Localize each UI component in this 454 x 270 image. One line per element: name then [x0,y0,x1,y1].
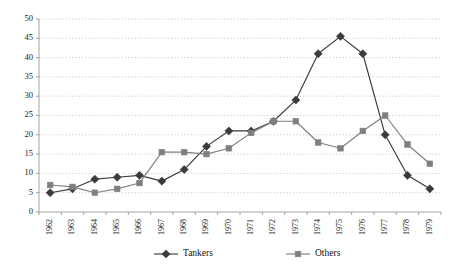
data-point-marker-square [114,186,120,192]
data-point-marker-diamond [113,173,121,181]
legend-item-tankers[interactable]: Tankers [154,248,213,258]
data-point-marker-diamond [158,177,166,185]
y-tick-label: 50 [25,13,34,23]
data-point-marker-square [47,182,53,188]
y-tick-label: 10 [25,167,34,177]
x-tick-label: 1969 [201,219,210,235]
x-tick-label: 1965 [112,219,121,235]
data-point-marker-diamond [46,189,54,197]
series-tankers [46,32,434,196]
y-tick-label: 5 [29,187,33,197]
x-tick-label: 1975 [335,219,344,235]
line-chart: 05101520253035404550 1962196319641965196… [0,0,454,270]
data-point-marker-diamond [381,131,389,139]
x-tick-label: 1964 [90,219,99,235]
y-tick-label: 35 [25,71,34,81]
data-point-marker-square [382,113,388,119]
data-point-marker-diamond [426,185,434,193]
x-tick-label: 1978 [402,219,411,235]
x-tick-label: 1966 [134,219,143,235]
chart-canvas: 05101520253035404550 1962196319641965196… [0,0,454,270]
data-point-marker-diamond [91,175,99,183]
y-tick-label: 30 [25,90,34,100]
gridlines-group [39,19,441,193]
y-tick-label: 0 [29,206,33,216]
data-point-marker-square [70,184,76,190]
data-point-marker-square [271,118,277,124]
data-point-marker-square [181,149,187,155]
data-point-marker-square [360,128,366,134]
x-tick-label: 1962 [45,219,54,235]
y-tick-label: 25 [25,109,34,119]
data-point-marker-diamond [225,127,233,135]
y-axis-tick-labels: 05101520253035404550 [25,13,34,216]
data-point-marker-square [92,190,98,196]
y-tick-label: 20 [25,129,34,139]
data-point-marker-square [226,146,232,152]
data-point-marker-diamond [162,250,170,258]
x-tick-label: 1968 [179,219,188,235]
y-tick-label: 45 [25,32,34,42]
x-tick-label: 1979 [425,219,434,235]
data-point-marker-square [248,130,254,136]
data-point-marker-square [315,140,321,146]
x-tick-label: 1967 [157,219,166,235]
x-tick-label: 1971 [246,219,255,235]
x-tick-label: 1970 [224,219,233,235]
x-tick-label: 1973 [291,219,300,235]
data-point-marker-square [293,118,299,124]
x-tick-label: 1976 [358,219,367,235]
series-line [50,36,430,192]
data-point-marker-square [338,146,344,152]
x-tick-label: 1974 [313,219,322,235]
chart-legend: TankersOthers [154,248,341,258]
legend-label: Tankers [183,248,213,258]
data-point-marker-diamond [403,171,411,179]
x-tick-label: 1972 [268,219,277,235]
y-tick-label: 40 [25,52,34,62]
data-point-marker-square [427,161,433,167]
data-point-marker-square [137,180,143,186]
x-axis-tick-labels: 1962196319641965196619671968196919701971… [45,219,434,235]
data-point-marker-square [159,149,165,155]
x-tick-label: 1963 [67,219,76,235]
data-point-marker-square [204,151,210,157]
data-point-marker-square [405,142,411,148]
legend-item-others[interactable]: Others [286,248,341,258]
y-tick-label: 15 [25,148,34,158]
x-tick-label: 1977 [380,219,389,235]
data-series-group [46,32,434,196]
legend-label: Others [315,248,341,258]
data-point-marker-square [295,251,301,257]
